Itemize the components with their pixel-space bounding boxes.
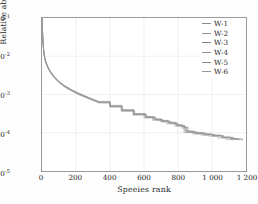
x-axis-label: Speeies rank [41,185,247,194]
legend-label: W-5 [214,58,228,67]
legend-label: W-3 [214,38,228,47]
y-tick-label: 10-1 [0,13,10,23]
legend-item[interactable]: W-1 [202,19,243,29]
y-tick-label: 10-5 [0,168,10,178]
legend-line-icon [202,23,211,24]
legend-line-icon [202,62,211,63]
x-tick-label: 0 [39,173,44,182]
legend-item[interactable]: W-5 [202,57,243,67]
rank-abundance-figure: Relative abundance 10-110-210-310-410-5 … [0,0,258,204]
legend-line-icon [202,52,211,53]
legend-item[interactable]: W-3 [202,38,243,48]
legend-item[interactable]: W-6 [202,67,243,77]
legend: W-1W-2W-3W-4W-5W-6 [200,18,245,78]
y-tick-label: 10-4 [0,129,10,139]
x-tick-label: 400 [103,173,117,182]
legend-line-icon [202,71,211,72]
y-tick-label: 10-3 [0,90,10,100]
legend-line-icon [202,33,211,34]
legend-item[interactable]: W-4 [202,48,243,58]
x-tick-label: 200 [68,173,82,182]
y-tick-label: 10-2 [0,51,10,61]
x-tick-label: 1 200 [237,173,258,182]
x-tick-label: 600 [137,173,151,182]
y-axis-label: Relative abundance [0,0,8,50]
legend-label: W-6 [214,67,228,76]
legend-label: W-1 [214,19,228,28]
x-tick-label: 800 [171,173,185,182]
legend-line-icon [202,42,211,43]
legend-label: W-2 [214,29,228,38]
legend-label: W-4 [214,48,228,57]
x-tick-label: 1 000 [202,173,223,182]
legend-item[interactable]: W-2 [202,29,243,39]
